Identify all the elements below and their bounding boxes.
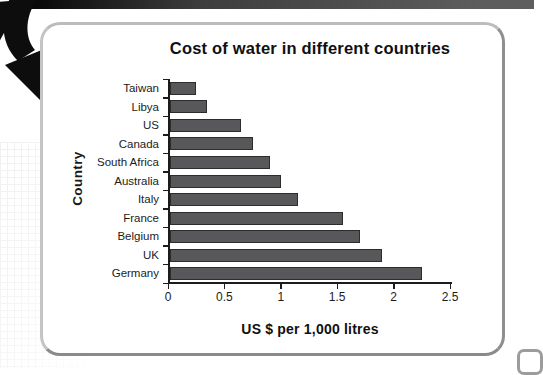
x-axis-title: US $ per 1,000 litres [168, 321, 452, 337]
bar [170, 82, 196, 95]
category-label: Germany [63, 264, 164, 283]
category-label: Taiwan [63, 79, 164, 98]
category-label: Belgium [63, 227, 164, 246]
x-tick-label: 1.5 [317, 290, 357, 304]
x-axis-tick [393, 284, 395, 289]
bar [170, 137, 253, 150]
corner-blob [517, 349, 543, 375]
x-tick-label: 1 [261, 290, 301, 304]
bar [170, 230, 360, 243]
bar [170, 156, 270, 169]
x-tick-label: 0.5 [204, 290, 244, 304]
category-label: Libya [63, 98, 164, 117]
bar [170, 175, 281, 188]
category-label: Italy [63, 190, 164, 209]
page-edge-strip [22, 0, 534, 9]
bar [170, 212, 343, 225]
bar [170, 100, 207, 113]
chart-card: Cost of water in different countries Cou… [40, 22, 505, 356]
category-label: Australia [63, 172, 164, 191]
x-tick-label: 2.5 [430, 290, 470, 304]
x-axis-tick [337, 284, 339, 289]
category-label: UK [63, 246, 164, 265]
x-tick-label: 0 [148, 290, 188, 304]
x-axis-tick [280, 284, 282, 289]
bar [170, 119, 241, 132]
category-label: Canada [63, 135, 164, 154]
x-tick-label: 2 [374, 290, 414, 304]
plot-area: 00.511.522.5TaiwanLibyaUSCanadaSouth Afr… [43, 25, 502, 353]
x-axis-tick [224, 284, 226, 289]
category-label: South Africa [63, 153, 164, 172]
x-axis-tick [450, 284, 452, 289]
x-axis-line [168, 282, 452, 284]
category-label: France [63, 209, 164, 228]
bar [170, 249, 382, 262]
category-label: US [63, 116, 164, 135]
bar [170, 267, 422, 280]
x-axis-tick [168, 284, 170, 289]
bar [170, 193, 298, 206]
